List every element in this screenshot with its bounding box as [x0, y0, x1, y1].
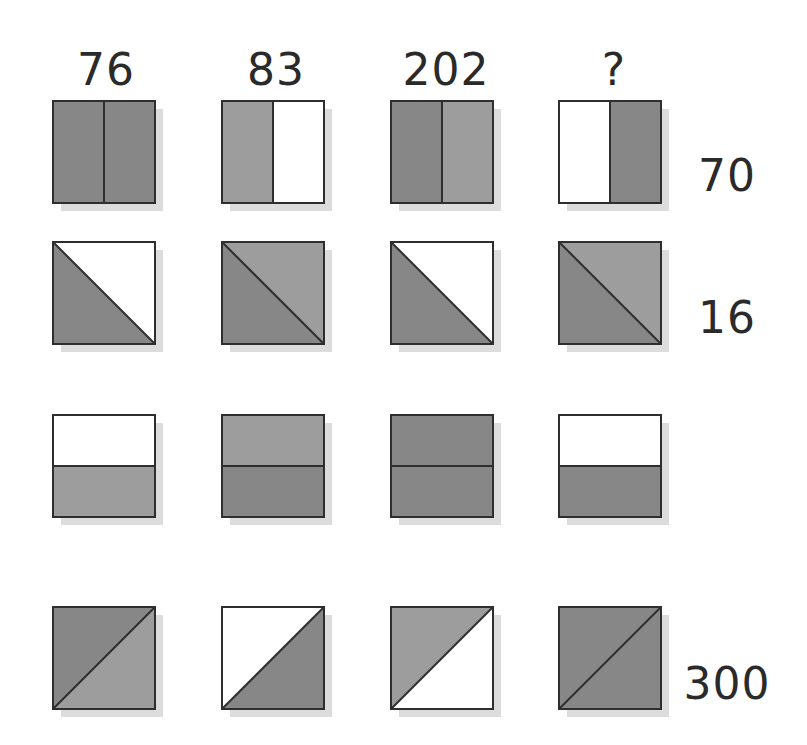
column-header-unknown: ?	[554, 42, 674, 98]
tile-r3-c2	[221, 414, 325, 518]
tile-r3-c3	[390, 414, 494, 518]
row-label-4: 300	[672, 656, 782, 712]
column-header-1: 76	[46, 42, 166, 98]
tile-r3-c1	[52, 414, 156, 518]
tile-r2-c4	[558, 241, 662, 345]
column-header-3: 202	[386, 42, 506, 98]
tile-r4-c4	[558, 606, 662, 710]
tile-r1-c2	[221, 100, 325, 204]
tile-r4-c3	[390, 606, 494, 710]
tile-r2-c3	[390, 241, 494, 345]
row-label-1: 70	[672, 148, 782, 204]
tile-r1-c4	[558, 100, 662, 204]
tile-r2-c2	[221, 241, 325, 345]
column-header-2: 83	[216, 42, 336, 98]
tile-r1-c1	[52, 100, 156, 204]
tile-r1-c3	[390, 100, 494, 204]
tile-r3-c4	[558, 414, 662, 518]
tile-r4-c2	[221, 606, 325, 710]
tile-r4-c1	[52, 606, 156, 710]
tile-r2-c1	[52, 241, 156, 345]
row-label-2: 16	[672, 290, 782, 346]
